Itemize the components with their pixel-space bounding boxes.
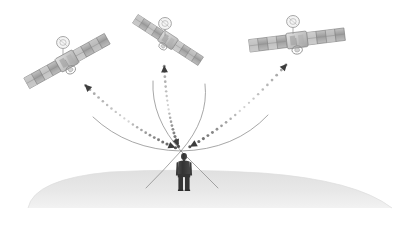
- signal-dot: [157, 138, 160, 141]
- signal-dot: [243, 106, 245, 108]
- signal-path-right: [188, 61, 289, 149]
- signal-dot: [161, 140, 164, 143]
- signal-dot: [211, 131, 214, 134]
- signal-dot: [132, 123, 134, 125]
- signal-dot: [202, 137, 205, 140]
- signal-dot: [168, 112, 170, 114]
- signal-dot: [216, 128, 219, 131]
- signal-dot: [170, 120, 173, 123]
- signal-arrowhead: [188, 140, 198, 149]
- signal-dot: [262, 88, 265, 91]
- satellite-navigation-illustration: [0, 0, 407, 226]
- signal-dot: [163, 75, 166, 78]
- signal-path-center: [161, 65, 182, 148]
- signal-dot: [220, 125, 223, 128]
- signal-dot: [165, 143, 168, 146]
- signal-dot: [266, 84, 269, 87]
- signal-dot: [275, 74, 278, 77]
- signal-dot: [140, 129, 143, 132]
- signal-dot: [172, 128, 175, 131]
- signal-dot: [248, 102, 250, 104]
- satellites-group: [23, 13, 346, 95]
- signal-dot: [166, 95, 168, 97]
- signal-dot: [127, 120, 129, 122]
- signal-dot: [252, 97, 254, 99]
- signal-dot: [106, 104, 109, 107]
- signal-dot: [115, 111, 117, 113]
- signal-arrowhead: [161, 65, 168, 72]
- scene-canvas: [0, 0, 407, 226]
- signal-dot: [164, 85, 167, 88]
- signal-dot: [164, 80, 167, 83]
- signal-dot: [171, 124, 174, 127]
- satellite-body-and-panels: [248, 26, 346, 59]
- signal-dot: [206, 134, 209, 137]
- signal-dot: [167, 108, 169, 110]
- signal-dot: [119, 114, 121, 116]
- signal-dot: [239, 110, 241, 112]
- signal-dot: [102, 100, 105, 103]
- signal-dot: [234, 114, 236, 116]
- signal-dot: [166, 99, 168, 101]
- cone-line-inner-right: [181, 84, 206, 151]
- signal-paths-group: [82, 61, 289, 151]
- signal-dot: [136, 126, 139, 129]
- signal-dot: [97, 96, 100, 99]
- signal-dot: [271, 79, 274, 82]
- signal-dot: [144, 131, 147, 134]
- dish-antenna-icon: [287, 16, 300, 35]
- signal-dot: [197, 140, 200, 143]
- signal-dot: [225, 121, 228, 124]
- signal-dot: [153, 136, 156, 139]
- signal-dot: [172, 132, 175, 135]
- signal-dot: [169, 116, 172, 119]
- signal-dot: [229, 117, 232, 120]
- signal-dot: [257, 93, 259, 95]
- satellite-right-dish: [287, 16, 300, 35]
- signal-dot: [149, 134, 152, 137]
- signal-dot: [123, 117, 125, 119]
- signal-dot: [173, 135, 176, 138]
- signal-dot: [110, 107, 112, 109]
- signal-dot: [93, 92, 96, 95]
- satellite-right: [248, 26, 346, 59]
- signal-dot: [167, 104, 169, 106]
- signal-dot: [165, 90, 167, 92]
- earth-surface: [28, 170, 392, 208]
